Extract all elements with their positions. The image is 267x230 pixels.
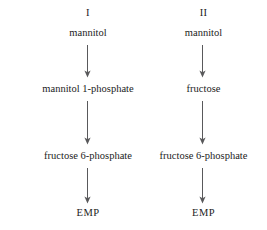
- pathway-two-step-fructose: fructose: [140, 84, 267, 95]
- pathway-one-arrow-1-icon: [82, 45, 93, 78]
- pathway-one-arrow-3-icon: [82, 168, 93, 204]
- pathway-column-two: II mannitol fructose fructose 6-phosphat…: [140, 0, 267, 230]
- pathway-two-header: II: [140, 8, 267, 19]
- pathway-two-arrow-1-icon: [197, 45, 208, 78]
- pathway-one-arrow-2-icon: [82, 101, 93, 145]
- pathway-figure: I mannitol mannitol 1-phosphate fructose…: [0, 0, 267, 230]
- pathway-two-arrow-2-icon: [197, 101, 208, 145]
- pathway-two-step-mannitol: mannitol: [140, 28, 267, 39]
- pathway-two-step-emp: EMP: [140, 208, 267, 219]
- pathway-two-arrow-3-icon: [197, 168, 208, 204]
- pathway-two-step-fructose-6-phosphate: fructose 6-phosphate: [140, 151, 267, 162]
